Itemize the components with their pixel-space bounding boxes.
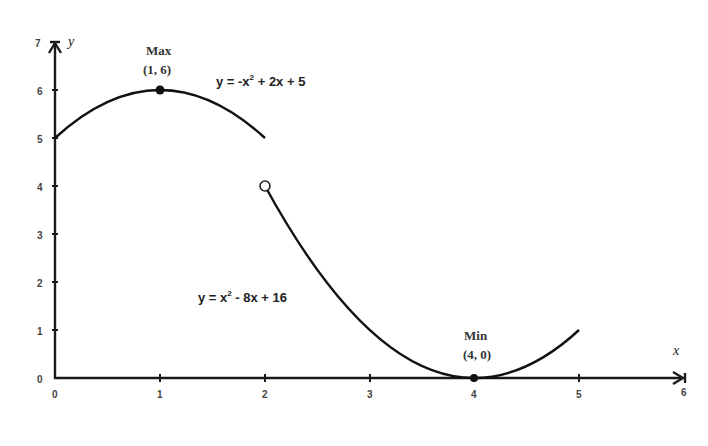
- y-tick-label: 4: [37, 182, 43, 193]
- x-tick-label: 4: [471, 389, 477, 400]
- x-tick-label: 2: [262, 389, 268, 400]
- min-coords: (4, 0): [463, 347, 491, 362]
- equation-2-suffix: - 8x + 16: [232, 290, 287, 305]
- y-tick-label: 1: [37, 326, 43, 337]
- equation-1-prefix: y = -x: [216, 74, 250, 89]
- min-point: [470, 374, 478, 382]
- x-tick-label: 3: [367, 389, 373, 400]
- y-tick-label: 0: [37, 374, 43, 385]
- equation-2: y = x2 - 8x + 16: [198, 289, 287, 305]
- parabola-curve-2-left: [265, 186, 474, 378]
- y-tick-label: 7: [35, 38, 41, 49]
- x-axis-label: x: [672, 343, 680, 358]
- max-point: [156, 86, 165, 95]
- x-tick-label: 0: [52, 389, 58, 400]
- x-tick-label: 6: [681, 387, 687, 398]
- y-axis-label: y: [66, 34, 75, 49]
- parabola-curve-1: [55, 90, 265, 138]
- y-tick-label: 2: [37, 278, 43, 289]
- piecewise-function-chart: 0 1 2 3 4 5 6 7 y 0 1 2 3 4 5 6 x: [0, 0, 708, 446]
- max-coords: (1, 6): [143, 62, 171, 77]
- min-title: Min: [464, 328, 488, 343]
- max-title: Max: [146, 43, 172, 58]
- equation-2-prefix: y = x: [198, 290, 228, 305]
- x-tick-label: 5: [576, 389, 582, 400]
- y-tick-label: 3: [37, 230, 43, 241]
- x-tick-label: 1: [157, 389, 163, 400]
- y-tick-label: 6: [37, 86, 43, 97]
- open-point: [260, 181, 270, 191]
- equation-1-suffix: + 2x + 5: [254, 74, 305, 89]
- x-axis: 0 1 2 3 4 5 6 x: [52, 343, 687, 400]
- equation-1: y = -x2 + 2x + 5: [216, 73, 305, 89]
- y-axis: 0 1 2 3 4 5 6 7 y: [35, 34, 75, 385]
- y-tick-label: 5: [37, 134, 43, 145]
